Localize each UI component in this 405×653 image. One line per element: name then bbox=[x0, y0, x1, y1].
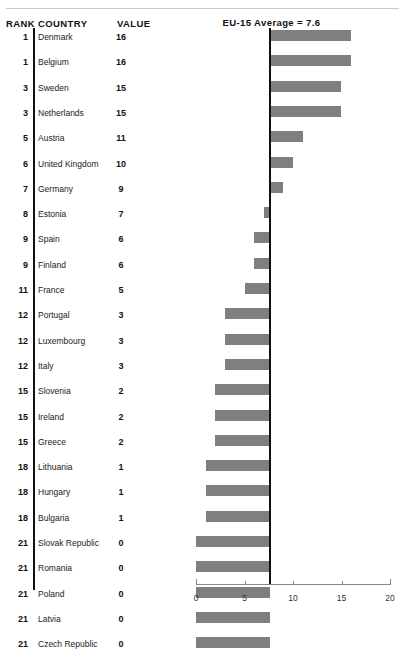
bar bbox=[225, 308, 270, 319]
value-cell: 0 bbox=[110, 639, 132, 649]
x-axis-tick-label: 20 bbox=[378, 593, 402, 603]
bar bbox=[196, 612, 270, 623]
x-axis-tick-label: 0 bbox=[184, 593, 208, 603]
bar bbox=[270, 157, 293, 168]
bar bbox=[245, 283, 270, 294]
country-cell: Czech Republic bbox=[38, 639, 113, 649]
bar bbox=[196, 536, 270, 547]
x-axis-tick-label: 10 bbox=[281, 593, 305, 603]
bar bbox=[206, 511, 270, 522]
bar bbox=[196, 561, 270, 572]
x-axis-tick bbox=[342, 581, 343, 585]
x-axis-tick bbox=[245, 581, 246, 585]
x-axis-tick-label: 15 bbox=[330, 593, 354, 603]
bar bbox=[254, 258, 270, 269]
bar bbox=[270, 182, 284, 193]
bar bbox=[225, 359, 270, 370]
x-axis-tick bbox=[196, 579, 197, 585]
bar bbox=[206, 460, 270, 471]
bar bbox=[270, 30, 351, 41]
bar bbox=[215, 384, 269, 395]
bar bbox=[270, 55, 351, 66]
bar bbox=[270, 131, 303, 142]
bar bbox=[215, 410, 269, 421]
x-axis-tick bbox=[390, 579, 391, 585]
bar bbox=[225, 334, 270, 345]
x-axis-tick-label: 5 bbox=[233, 593, 257, 603]
bar bbox=[270, 106, 342, 117]
eu15-average-reference-line bbox=[269, 28, 271, 584]
bar bbox=[206, 485, 270, 496]
table-row: 21Czech Republic0 bbox=[0, 639, 190, 653]
rank-cell: 21 bbox=[0, 639, 28, 649]
bar bbox=[196, 637, 270, 648]
bar bbox=[254, 232, 270, 243]
x-axis-tick bbox=[293, 581, 294, 585]
bar bbox=[215, 435, 269, 446]
bar bbox=[270, 81, 342, 92]
